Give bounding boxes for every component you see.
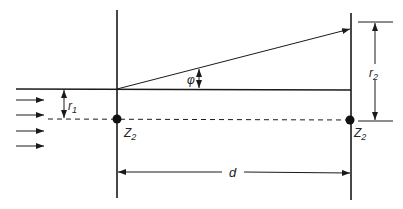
d-label: d xyxy=(229,165,237,180)
z-left-label: Z2 xyxy=(123,126,136,142)
dashed-axis xyxy=(48,119,351,120)
phi-label: φ xyxy=(187,73,195,87)
d-dimension-right xyxy=(244,172,350,173)
reference-line xyxy=(16,89,351,90)
ray-arrow xyxy=(117,29,350,89)
diagram-canvas: r1 φ Z2 Z2 r2 d xyxy=(0,0,403,209)
z-right-label: Z2 xyxy=(353,126,366,142)
r1-label: r1 xyxy=(68,99,77,115)
left-point xyxy=(113,115,122,124)
right-point xyxy=(346,116,355,125)
incident-arrows xyxy=(16,100,44,146)
